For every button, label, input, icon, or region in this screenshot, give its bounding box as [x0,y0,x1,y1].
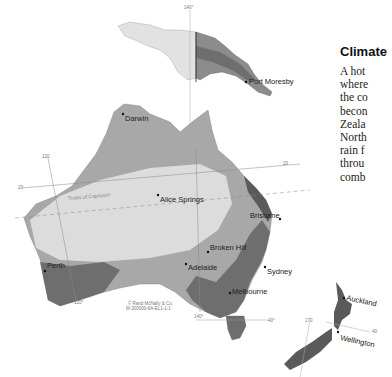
paragraph-line: becon [340,105,392,118]
paragraph-line: A hot [340,65,392,78]
svg-text:Wellington: Wellington [340,333,376,349]
new-zealand-south [284,328,332,370]
label-lat-40: 40° [268,318,275,323]
svg-text:Melbourne: Melbourne [232,287,267,296]
svg-text:Adelaide: Adelaide [188,263,217,272]
city-darwin: Darwin [122,113,149,123]
copyright-line-2: M-300000-6A-EL1-1-1 [126,306,171,311]
svg-text:Alice Springs: Alice Springs [160,195,204,204]
city-alice-springs: Alice Springs [157,194,204,204]
label-lon-140-bottom: 140° [194,314,204,319]
paragraph-line: where [340,78,392,91]
tasmania [226,316,246,340]
svg-text:Sydney: Sydney [267,267,292,276]
city-melbourne: Melbourne [229,287,268,296]
svg-text:Broken Hill: Broken Hill [210,243,247,252]
paragraph-line: rain f [340,144,392,157]
svg-text:Darwin: Darwin [125,114,148,123]
city-sydney: Sydney [264,266,292,276]
label-lat-20-left: 20 [18,185,24,190]
city-wellington: Wellington [337,331,376,349]
label-lon-120-upper: 120 [42,154,50,159]
label-lat-40-nz: 40 [372,329,378,334]
city-adelaide: Adelaide [185,263,217,272]
new-guinea-west [118,22,196,80]
paragraph-line: comb [340,171,392,184]
parallel-40-nz [326,322,370,332]
svg-text:Perth: Perth [47,261,65,270]
label-lon-170: 170 [305,318,313,323]
label-lon-120-bottom: 120° [74,300,84,305]
paragraph-line: the co [340,91,392,104]
city-brisbane: Brisbane [250,211,281,220]
new-zealand-north [334,282,352,330]
paragraph-line: Zeala [340,118,392,131]
city-port-moresby: Port Moresby [245,77,294,86]
label-lon-140-top: 140° [184,5,194,10]
climate-text-panel: Climate A hot where the co becon Zeala N… [340,44,392,184]
svg-text:Brisbane: Brisbane [250,211,280,220]
paragraph-line: throu [340,157,392,170]
section-title: Climate [340,44,392,59]
city-broken-hill: Broken Hill [207,243,247,253]
paragraph-line: North [340,131,392,144]
svg-text:Port Moresby: Port Moresby [249,77,294,86]
label-lat-20-right: 20 [283,161,289,166]
